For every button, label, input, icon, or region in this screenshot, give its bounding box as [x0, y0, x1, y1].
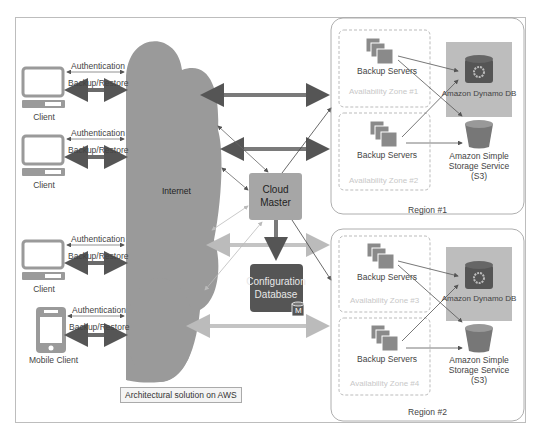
config-db-line1: Configuration — [246, 275, 306, 288]
master-region1-arrow — [282, 108, 331, 173]
s3-label: Amazon Simple Storage Service (S3) — [440, 355, 518, 385]
region-label: Region #2 — [331, 407, 524, 417]
config-db-label: Configuration Database — [246, 275, 306, 301]
az-label: Availability Zone #1 — [349, 87, 418, 96]
client-label: Client — [22, 284, 66, 294]
backup-servers-label: Backup Servers — [357, 354, 417, 364]
backup-servers-label: Backup Servers — [357, 150, 417, 160]
s3-label-line2: Storage Service — [440, 161, 518, 171]
internet-label: Internet — [162, 186, 191, 196]
s3-label-line3: (S3) — [440, 375, 518, 385]
server-stack-icon — [371, 325, 398, 351]
az-label: Availability Zone #4 — [350, 379, 419, 388]
region-label: Region #1 — [331, 205, 524, 215]
db-badge-label: M — [295, 306, 302, 315]
server-stack-icon — [367, 243, 394, 269]
az-label: Availability Zone #2 — [349, 176, 418, 185]
s3-label-line1: Amazon Simple — [440, 355, 518, 365]
dynamo-db-label: Amazon Dynamo DB — [440, 89, 518, 98]
cloud-master-line2: Master — [249, 196, 302, 209]
az-label: Availability Zone #3 — [350, 296, 419, 305]
auth-label: Authentication — [72, 305, 126, 315]
cloud-master-line1: Cloud — [249, 183, 302, 196]
s3-label-line3: (S3) — [440, 171, 518, 181]
backup-servers-label: Backup Servers — [357, 66, 417, 76]
client-desktop-3 — [22, 241, 65, 280]
client-label: Client — [22, 112, 66, 122]
server-stack-icon — [366, 38, 393, 64]
s3-bucket-icon — [465, 120, 493, 149]
auth-label: Authentication — [71, 61, 125, 71]
server-stack-icon — [370, 121, 397, 147]
s3-label-line1: Amazon Simple — [440, 151, 518, 161]
diagram-caption: Architectural solution on AWS — [120, 387, 242, 403]
client-desktop-1 — [22, 68, 65, 108]
s3-bucket-icon — [465, 324, 493, 353]
backup-label: Backup/Restore — [68, 78, 128, 88]
client-desktop-2 — [22, 136, 65, 176]
backup-label: Backup/Restore — [68, 251, 128, 261]
dynamo-db-icon — [465, 55, 493, 83]
auth-label: Authentication — [71, 234, 125, 244]
s3-label: Amazon Simple Storage Service (S3) — [440, 151, 518, 181]
auth-label: Authentication — [71, 128, 125, 138]
mobile-client-label: Mobile Client — [29, 355, 78, 365]
client-label: Client — [22, 180, 66, 190]
backup-servers-label: Backup Servers — [357, 272, 417, 282]
s3-label-line2: Storage Service — [440, 365, 518, 375]
client-arrows — [67, 72, 124, 335]
cloud-master-label: Cloud Master — [249, 183, 302, 209]
backup-label: Backup/Restore — [68, 145, 128, 155]
mobile-client-device — [36, 307, 66, 353]
dynamo-db-icon — [465, 261, 493, 289]
internet-cloud — [126, 41, 221, 382]
config-db-line2: Database — [246, 288, 306, 301]
backup-label: Backup/Restore — [69, 322, 129, 332]
dynamo-db-label: Amazon Dynamo DB — [440, 294, 518, 303]
